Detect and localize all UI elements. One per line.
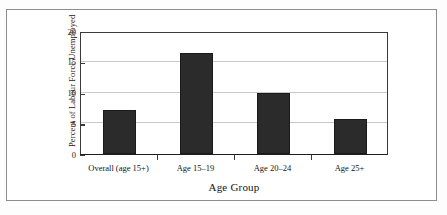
bar bbox=[103, 110, 136, 154]
bar bbox=[257, 93, 290, 155]
y-axis-tick-labels: 05101520 bbox=[56, 32, 76, 155]
x-tick-label: Age 25+ bbox=[311, 164, 388, 173]
x-tick-label: Age 20–24 bbox=[234, 164, 311, 173]
x-axis-title: Age Group bbox=[80, 181, 388, 193]
bar bbox=[180, 53, 213, 154]
y-tick-label: 5 bbox=[58, 120, 76, 129]
y-tick-label: 0 bbox=[58, 151, 76, 160]
x-tick-label: Overall (age 15+) bbox=[80, 164, 157, 173]
figure-root: Percent of Labour Force Unemployed 05101… bbox=[0, 0, 447, 215]
y-tick-label: 20 bbox=[58, 28, 76, 37]
y-tick-label: 15 bbox=[58, 58, 76, 67]
y-tick-mark bbox=[80, 155, 85, 156]
gridline-10 bbox=[81, 92, 387, 93]
x-tick-mark bbox=[311, 155, 312, 160]
x-tick-mark bbox=[234, 155, 235, 160]
gridline-15 bbox=[81, 61, 387, 62]
y-tick-label: 10 bbox=[58, 89, 76, 98]
x-tick-label: Age 15–19 bbox=[157, 164, 234, 173]
plot-area bbox=[80, 32, 388, 155]
bar bbox=[334, 119, 367, 154]
x-tick-mark bbox=[157, 155, 158, 160]
clipped-header-text bbox=[0, 0, 447, 4]
